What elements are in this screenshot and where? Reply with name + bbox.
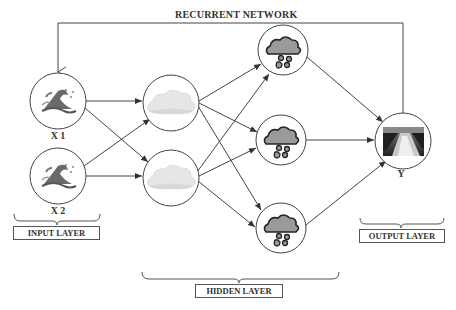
edge-h1-r1 bbox=[199, 64, 261, 101]
node-hidden-1 bbox=[143, 75, 199, 131]
edge-x2-h1 bbox=[84, 119, 150, 166]
recurrent-connection bbox=[58, 23, 403, 113]
flooded-road-photo bbox=[383, 127, 424, 156]
edge-h2-r2 bbox=[199, 148, 256, 176]
hidden-layer-label: HIDDEN LAYER bbox=[195, 284, 283, 298]
node-rain-2 bbox=[256, 115, 306, 165]
node-x2 bbox=[30, 148, 86, 204]
node-rain-1 bbox=[258, 25, 308, 75]
output-layer-brace bbox=[360, 218, 444, 228]
node-x2-label: X 2 bbox=[51, 205, 66, 216]
network-diagram bbox=[0, 0, 456, 310]
node-x1-label: X 1 bbox=[51, 130, 66, 141]
node-hidden-2 bbox=[143, 150, 199, 206]
output-layer-label: OUTPUT LAYER bbox=[359, 229, 445, 243]
input-layer-label: INPUT LAYER bbox=[13, 226, 100, 240]
edge-x1-h2 bbox=[85, 108, 148, 162]
node-output-y bbox=[375, 113, 431, 169]
node-y-label: Y bbox=[397, 168, 404, 179]
node-rain-3 bbox=[256, 203, 306, 253]
diagram-title: RECURRENT NETWORK bbox=[175, 9, 297, 20]
edge-h1-r2 bbox=[199, 103, 257, 132]
edge-r3-y bbox=[306, 161, 386, 225]
edge-r1-y bbox=[307, 57, 383, 122]
node-x1 bbox=[30, 73, 86, 129]
hidden-layer-brace bbox=[142, 272, 339, 283]
edge-h2-r3 bbox=[198, 181, 255, 227]
